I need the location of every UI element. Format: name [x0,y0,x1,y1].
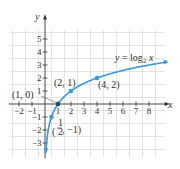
point-label-1-0-leader [41,96,57,103]
x-tick-label: 3 [82,106,87,116]
curve-arrow-right-icon [164,59,169,64]
data-point [56,102,61,107]
data-point [49,115,54,120]
y-tick-label: 3 [37,60,42,70]
x-tick-label: 6 [121,106,126,116]
y-axis-arrow-icon [43,14,47,19]
half-label-rest: , −1) [62,124,81,136]
data-point [69,89,74,94]
y-tick-label: 4 [37,47,42,57]
axes [9,14,170,158]
point-label-1-0: (1, 0) [12,89,34,101]
x-tick-label: 7 [134,106,139,116]
y-tick-label: −1 [32,112,42,122]
log-graph: −2−112345678−3−2−112345 y x y = log2 x (… [0,0,180,169]
y-tick-label: 1 [37,86,42,96]
x-axis-label: x [167,99,173,110]
point-label-2-1: (2, 1) [54,77,76,89]
x-tick-label: 5 [108,106,113,116]
y-tick-label: 2 [37,73,42,83]
fn-label-x: x [146,52,154,63]
y-axis-label: y [34,11,40,22]
x-tick-label: −2 [14,106,24,116]
x-tick-label: 8 [147,106,152,116]
y-tick-label: −2 [32,125,42,135]
y-tick-label: 5 [37,34,42,44]
x-tick-label: 2 [69,106,74,116]
y-tick-label: −3 [32,138,42,148]
fn-label-eq: = log [119,52,142,63]
point-label-half-neg1: ( 1 2 , −1) [52,117,81,138]
point-label-4-2: (4, 2) [98,79,120,91]
curve-arrow-down-icon [44,148,49,154]
function-label: y = log2 x [114,52,154,65]
x-tick-label: 4 [95,106,100,116]
